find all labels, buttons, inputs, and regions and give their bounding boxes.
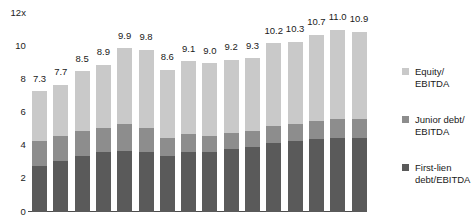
bar-15-segment-first-lien-debt <box>330 138 345 212</box>
bar-10 <box>224 60 239 212</box>
bar-12 <box>266 43 281 212</box>
bar-9-segment-equity <box>202 63 217 136</box>
bar-5 <box>117 48 132 212</box>
bar-1-segment-junior-debt <box>32 141 47 166</box>
plot-area: 7.37.78.58.99.99.88.69.19.09.29.310.210.… <box>0 0 370 218</box>
bar-10-segment-first-lien-debt <box>224 149 239 212</box>
bar-6 <box>139 50 154 212</box>
bar-10-segment-junior-debt <box>224 133 239 150</box>
bar-11-segment-equity <box>245 58 260 131</box>
bar-value-label-6: 9.8 <box>132 32 160 42</box>
bar-2-segment-junior-debt <box>53 136 68 161</box>
bar-16-segment-first-lien-debt <box>352 138 367 212</box>
legend-label-first-lien: First-liendebt/EBITDA <box>415 162 476 185</box>
bar-11-segment-first-lien-debt <box>245 147 260 212</box>
bar-7-segment-junior-debt <box>160 138 175 156</box>
bar-16-segment-equity <box>352 32 367 120</box>
bar-13 <box>288 42 303 212</box>
bar-16 <box>352 32 367 212</box>
bar-1 <box>32 91 47 212</box>
bar-6-segment-first-lien-debt <box>139 152 154 212</box>
bar-value-label-4: 8.9 <box>89 47 117 57</box>
bar-2-segment-equity <box>53 85 68 136</box>
bar-1-segment-equity <box>32 91 47 141</box>
bar-7-segment-equity <box>160 70 175 138</box>
bar-8 <box>181 61 196 212</box>
bar-value-label-16: 10.9 <box>345 14 373 24</box>
legend-label-first-lien-line1: First-lien <box>415 162 476 174</box>
bar-4-segment-first-lien-debt <box>96 152 111 212</box>
bar-6-segment-equity <box>139 50 154 128</box>
bar-9 <box>202 63 217 212</box>
bar-3 <box>75 71 90 212</box>
bar-9-segment-junior-debt <box>202 136 217 153</box>
bar-3-segment-first-lien-debt <box>75 156 90 212</box>
bar-8-segment-first-lien-debt <box>181 152 196 212</box>
legend-label-equity-line1: Equity/ <box>415 66 476 78</box>
bar-13-segment-first-lien-debt <box>288 141 303 212</box>
bar-12-segment-first-lien-debt <box>266 143 281 213</box>
legend-label-equity: Equity/EBITDA <box>415 66 476 89</box>
bar-2-segment-first-lien-debt <box>53 161 68 212</box>
bar-15-segment-junior-debt <box>330 119 345 137</box>
bar-3-segment-junior-debt <box>75 131 90 156</box>
bar-1-segment-first-lien-debt <box>32 166 47 212</box>
bar-value-label-2: 7.7 <box>47 67 75 77</box>
bar-12-segment-junior-debt <box>266 126 281 143</box>
stacked-bar-chart: 12x1086420 7.37.78.58.99.99.88.69.19.09.… <box>0 0 476 218</box>
bar-14-segment-junior-debt <box>309 121 324 139</box>
bar-14-segment-first-lien-debt <box>309 139 324 212</box>
bar-16-segment-junior-debt <box>352 119 367 137</box>
legend-label-junior-line1: Junior debt/ <box>415 114 476 126</box>
bar-3-segment-equity <box>75 71 90 131</box>
bar-15 <box>330 30 345 212</box>
bar-13-segment-junior-debt <box>288 124 303 141</box>
bar-8-segment-equity <box>181 61 196 134</box>
legend-swatch-first-lien-icon <box>402 164 409 171</box>
bar-5-segment-junior-debt <box>117 124 132 150</box>
bar-9-segment-first-lien-debt <box>202 152 217 212</box>
legend-swatch-equity-icon <box>402 68 409 75</box>
bar-14 <box>309 35 324 212</box>
bar-8-segment-junior-debt <box>181 134 196 152</box>
bar-4 <box>96 65 111 212</box>
bar-7-segment-first-lien-debt <box>160 156 175 212</box>
bar-4-segment-junior-debt <box>96 128 111 153</box>
bar-2 <box>53 85 68 212</box>
bar-11 <box>245 58 260 212</box>
bar-12-segment-equity <box>266 43 281 126</box>
bar-7 <box>160 70 175 212</box>
bar-13-segment-equity <box>288 42 303 125</box>
bar-value-label-11: 9.3 <box>239 41 267 51</box>
bar-11-segment-junior-debt <box>245 131 260 148</box>
bar-15-segment-equity <box>330 30 345 119</box>
legend-label-junior: Junior debt/EBITDA <box>415 114 476 137</box>
legend-label-first-lien-line2: debt/EBITDA <box>415 174 476 186</box>
bar-5-segment-first-lien-debt <box>117 151 132 212</box>
legend-label-junior-line2: EBITDA <box>415 126 476 138</box>
bar-4-segment-equity <box>96 65 111 128</box>
legend-swatch-junior-icon <box>402 116 409 123</box>
legend-label-equity-line2: EBITDA <box>415 78 476 90</box>
bar-14-segment-equity <box>309 35 324 121</box>
bar-5-segment-equity <box>117 48 132 124</box>
bar-6-segment-junior-debt <box>139 128 154 153</box>
bar-10-segment-equity <box>224 60 239 133</box>
